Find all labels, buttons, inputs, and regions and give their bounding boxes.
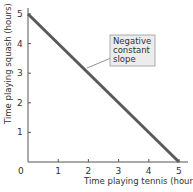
x-tick-label: 2 bbox=[85, 166, 91, 176]
y-tick-label: 5 bbox=[17, 9, 23, 19]
chart: 012345 12345 Negative constant slope Tim… bbox=[0, 0, 193, 192]
x-tick-label: 3 bbox=[116, 166, 122, 176]
y-tick-label: 4 bbox=[17, 39, 23, 49]
annotation-line-3: slope bbox=[113, 54, 136, 64]
y-tick-label: 3 bbox=[17, 68, 23, 78]
x-tick-label: 5 bbox=[176, 166, 182, 176]
y-tick-label: 1 bbox=[17, 127, 23, 137]
x-tick-label: 4 bbox=[146, 166, 152, 176]
y-tick-label: 2 bbox=[17, 98, 23, 108]
x-tick-label: 0 bbox=[18, 166, 24, 176]
y-axis-label: Time playing squash (hours) bbox=[3, 3, 13, 125]
series-line bbox=[28, 14, 179, 162]
y-ticks: 12345 bbox=[17, 9, 31, 137]
x-tick-label: 1 bbox=[55, 166, 61, 176]
annotation-leader bbox=[87, 58, 111, 68]
x-axis-label: Time playing tennis (hours) bbox=[83, 176, 193, 186]
